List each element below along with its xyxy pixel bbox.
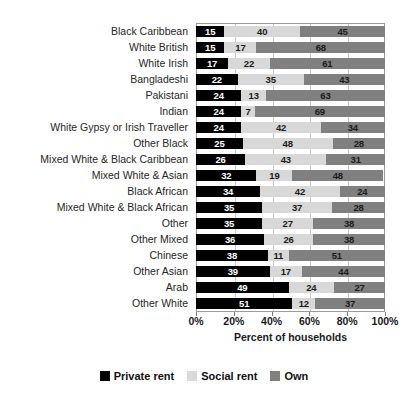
bar-segment-private-rent: 24 — [196, 90, 241, 101]
category-label: White Irish — [0, 58, 192, 69]
bar-segment-social-rent: 35 — [238, 74, 304, 85]
category-label: Other White — [0, 298, 192, 309]
bar-value-label: 31 — [351, 154, 361, 165]
bar-value-label: 22 — [244, 58, 254, 69]
bar-segment-social-rent: 40 — [224, 26, 300, 37]
legend-swatch-icon — [270, 371, 280, 381]
bar-value-label: 17 — [281, 266, 291, 277]
category-label: Indian — [0, 106, 192, 117]
category-label: Pakistani — [0, 90, 192, 101]
bar-segment-own: 31 — [326, 154, 385, 165]
legend-item[interactable]: Own — [270, 370, 308, 382]
bar-segment-private-rent: 32 — [196, 170, 256, 181]
legend-item[interactable]: Private rent — [100, 370, 175, 382]
category-label: Chinese — [0, 250, 192, 261]
category-label: Arab — [0, 282, 192, 293]
x-tick-label: 40% — [261, 315, 282, 327]
bar-segment-social-rent: 42 — [241, 122, 320, 133]
legend-label: Social rent — [201, 370, 257, 382]
bar-value-label: 24 — [214, 106, 224, 117]
bar-value-label: 37 — [345, 298, 355, 309]
bar-value-label: 51 — [239, 298, 249, 309]
bar-segment-own: 28 — [333, 138, 385, 149]
bar-row: 344224 — [196, 186, 385, 197]
bar-row: 511237 — [196, 298, 385, 309]
bar-value-label: 24 — [214, 90, 224, 101]
bar-value-label: 35 — [266, 74, 276, 85]
bar-segment-private-rent: 35 — [196, 202, 262, 213]
bar-segment-social-rent: 43 — [245, 154, 326, 165]
bar-segment-own: 28 — [332, 202, 385, 213]
bar-value-label: 44 — [338, 266, 348, 277]
bar-segment-private-rent: 49 — [196, 282, 289, 293]
bar-segment-private-rent: 39 — [196, 266, 270, 277]
bar-row: 154045 — [196, 26, 385, 37]
category-label: Black Caribbean — [0, 26, 192, 37]
bar-value-label: 27 — [354, 282, 364, 293]
bar-rows: 1540451517681722612235432413632476924423… — [196, 23, 385, 312]
bar-segment-social-rent: 42 — [260, 186, 339, 197]
bar-value-label: 25 — [214, 138, 224, 149]
bar-value-label: 37 — [292, 202, 302, 213]
bar-value-label: 63 — [320, 90, 330, 101]
bar-value-label: 19 — [269, 170, 279, 181]
bar-row: 321948 — [196, 170, 385, 181]
bar-row: 264331 — [196, 154, 385, 165]
bar-segment-own: 48 — [292, 170, 383, 181]
bar-value-label: 35 — [224, 218, 234, 229]
bar-value-label: 38 — [227, 250, 237, 261]
bar-segment-social-rent: 26 — [264, 234, 313, 245]
bar-segment-own: 38 — [313, 218, 385, 229]
bar-value-label: 26 — [215, 154, 225, 165]
x-tick-label: 80% — [337, 315, 358, 327]
bar-row: 353728 — [196, 202, 385, 213]
bar-value-label: 35 — [224, 202, 234, 213]
bar-value-label: 45 — [337, 26, 347, 37]
x-tick-label: 0% — [188, 315, 203, 327]
bar-value-label: 24 — [357, 186, 367, 197]
bar-row: 492427 — [196, 282, 385, 293]
bar-segment-social-rent: 17 — [270, 266, 302, 277]
legend-item[interactable]: Social rent — [187, 370, 257, 382]
bar-segment-social-rent: 12 — [292, 298, 315, 309]
bar-segment-private-rent: 22 — [196, 74, 238, 85]
bar-segment-social-rent: 24 — [289, 282, 334, 293]
bar-segment-own: 44 — [302, 266, 385, 277]
category-label: Bangladeshi — [0, 74, 192, 85]
bar-segment-private-rent: 24 — [196, 122, 241, 133]
bar-value-label: 28 — [354, 138, 364, 149]
bar-value-label: 22 — [212, 74, 222, 85]
bar-value-label: 15 — [205, 42, 215, 53]
legend-swatch-icon — [100, 371, 110, 381]
bar-value-label: 12 — [299, 298, 309, 309]
bar-segment-social-rent: 27 — [262, 218, 313, 229]
bar-segment-own: 24 — [340, 186, 385, 197]
legend-label: Own — [284, 370, 308, 382]
bar-value-label: 11 — [273, 250, 283, 261]
bar-segment-own: 68 — [256, 42, 385, 53]
bar-value-label: 42 — [295, 186, 305, 197]
category-label: Mixed White & Black African — [0, 202, 192, 213]
bar-value-label: 34 — [223, 186, 233, 197]
bar-value-label: 36 — [225, 234, 235, 245]
bar-segment-own: 34 — [321, 122, 385, 133]
bar-row: 381151 — [196, 250, 385, 261]
category-label: Other Asian — [0, 266, 192, 277]
bar-row: 391744 — [196, 266, 385, 277]
bar-value-label: 61 — [322, 58, 332, 69]
stacked-bar-chart: Black CaribbeanWhite BritishWhite IrishB… — [0, 0, 408, 408]
bar-segment-social-rent: 48 — [243, 138, 333, 149]
category-label: Other Black — [0, 138, 192, 149]
bar-row: 244234 — [196, 122, 385, 133]
bar-value-label: 38 — [344, 234, 354, 245]
bar-row: 254828 — [196, 138, 385, 149]
bar-value-label: 39 — [228, 266, 238, 277]
bar-value-label: 48 — [333, 170, 343, 181]
bar-row: 241363 — [196, 90, 385, 101]
bar-row: 151768 — [196, 42, 385, 53]
bar-segment-private-rent: 15 — [196, 42, 224, 53]
bar-value-label: 43 — [281, 154, 291, 165]
bar-segment-own: 43 — [304, 74, 385, 85]
bar-segment-private-rent: 35 — [196, 218, 262, 229]
bar-segment-private-rent: 34 — [196, 186, 260, 197]
